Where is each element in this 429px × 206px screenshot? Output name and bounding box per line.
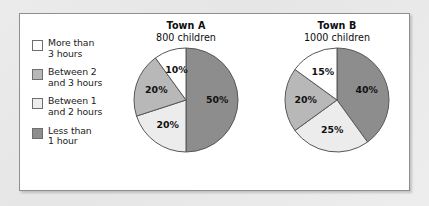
figure-panel: More than 3 hours Between 2 and 3 hours … <box>19 13 410 191</box>
figure-root: More than 3 hours Between 2 and 3 hours … <box>0 0 429 206</box>
pie-graphic-town-b: 40%25%20%15% <box>283 46 391 154</box>
legend-swatch-between-2-and-3-hours <box>32 69 43 80</box>
pie-slice-label-less-than-1-hour: 50% <box>206 94 229 105</box>
chart-title-town-b: Town B <box>272 20 402 32</box>
pie-chart-town-a: Town A 800 children 50%20%20%10% <box>121 20 251 154</box>
pie-slice-label-more-than-3-hours: 10% <box>165 64 188 75</box>
pie-slice-label-between-2-and-3-hours: 20% <box>295 94 318 105</box>
chart-title-town-a: Town A <box>121 20 251 32</box>
legend-swatch-between-1-and-2-hours <box>32 98 43 109</box>
pie-graphic-town-a: 50%20%20%10% <box>132 46 240 154</box>
legend-swatch-more-than-3-hours <box>32 40 43 51</box>
legend-swatch-less-than-1-hour <box>32 128 43 139</box>
legend-item-between-1-and-2-hours: Between 1 and 2 hours <box>32 96 118 117</box>
legend-label-between-1-and-2-hours: Between 1 and 2 hours <box>48 96 102 117</box>
legend-label-more-than-3-hours: More than 3 hours <box>48 38 94 59</box>
pie-slice-label-more-than-3-hours: 15% <box>312 66 335 77</box>
chart-subtitle-town-a: 800 children <box>121 32 251 44</box>
legend-item-between-2-and-3-hours: Between 2 and 3 hours <box>32 67 118 88</box>
pie-slice-label-between-2-and-3-hours: 20% <box>145 84 168 95</box>
pie-slice-label-less-than-1-hour: 40% <box>355 84 378 95</box>
pie-slice-label-between-1-and-2-hours: 25% <box>321 124 344 135</box>
pie-svg-town-b: 40%25%20%15% <box>283 46 391 154</box>
legend-item-more-than-3-hours: More than 3 hours <box>32 38 118 59</box>
legend-label-less-than-1-hour: Less than 1 hour <box>48 126 92 147</box>
pie-svg-town-a: 50%20%20%10% <box>132 46 240 154</box>
pie-chart-town-b: Town B 1000 children 40%25%20%15% <box>272 20 402 154</box>
chart-subtitle-town-b: 1000 children <box>272 32 402 44</box>
pie-slice-label-between-1-and-2-hours: 20% <box>156 119 179 130</box>
legend-item-less-than-1-hour: Less than 1 hour <box>32 126 118 147</box>
chart-legend: More than 3 hours Between 2 and 3 hours … <box>32 38 118 155</box>
legend-label-between-2-and-3-hours: Between 2 and 3 hours <box>48 67 102 88</box>
